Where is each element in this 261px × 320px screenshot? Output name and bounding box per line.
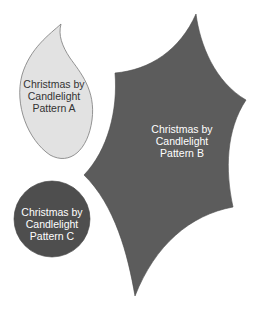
pattern-b-line-2: Candlelight — [132, 135, 232, 147]
pattern-c-label: Christmas by Candlelight Pattern C — [12, 206, 92, 242]
pattern-b-label: Christmas by Candlelight Pattern B — [132, 123, 232, 159]
pattern-c-line-1: Christmas by — [12, 206, 92, 218]
pattern-c-line-2: Candlelight — [12, 218, 92, 230]
pattern-a-label: Christmas by Candlelight Pattern A — [14, 78, 94, 114]
pattern-a-line-1: Christmas by — [14, 78, 94, 90]
pattern-b-line-1: Christmas by — [132, 123, 232, 135]
pattern-b-line-3: Pattern B — [132, 147, 232, 159]
pattern-diagram — [0, 0, 261, 320]
pattern-a-line-2: Candlelight — [14, 90, 94, 102]
pattern-c-line-3: Pattern C — [12, 230, 92, 242]
pattern-a-line-3: Pattern A — [14, 102, 94, 114]
